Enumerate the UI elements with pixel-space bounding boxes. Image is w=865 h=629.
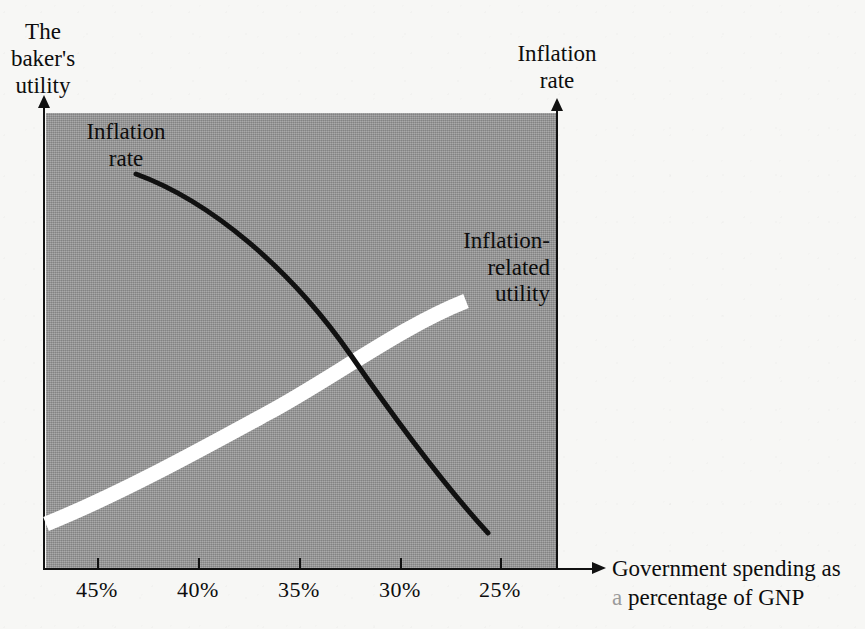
inflation-rate-annotation: Inflation rate xyxy=(62,119,190,172)
inflation-related-utility-annotation-line3: utility xyxy=(380,281,550,308)
inflation-rate-annotation-line1: Inflation xyxy=(62,119,190,146)
inflation-related-utility-annotation: Inflation- related utility xyxy=(380,228,550,308)
x-axis-title-faded-article: a xyxy=(612,585,622,610)
x-axis-title-line2: a percentage of GNP xyxy=(612,584,841,613)
y-axis-left-title-line3: utility xyxy=(0,72,134,99)
inflation-related-utility-annotation-line2: related xyxy=(380,255,550,282)
inflation-related-utility-annotation-line1: Inflation- xyxy=(380,228,550,255)
y-axis-right-title-line1: Inflation xyxy=(464,40,650,67)
x-axis-title-line1: Government spending as xyxy=(612,555,841,584)
y-axis-left-title-line2: baker's xyxy=(0,45,134,72)
inflation-rate-annotation-line2: rate xyxy=(62,146,190,173)
x-axis-title: Government spending as a percentage of G… xyxy=(612,555,841,613)
y-axis-left-title-line1: The xyxy=(0,18,134,45)
y-axis-left-title: The baker's utility xyxy=(0,18,134,99)
x-axis-title-line2-rest: percentage of GNP xyxy=(622,585,804,610)
figure-canvas: 45% 40% 35% 30% 25% The baker's utility … xyxy=(0,0,865,629)
y-axis-right-title: Inflation rate xyxy=(464,40,650,94)
inflation-related-utility-curve xyxy=(46,301,466,524)
y-axis-right-title-line2: rate xyxy=(464,67,650,94)
